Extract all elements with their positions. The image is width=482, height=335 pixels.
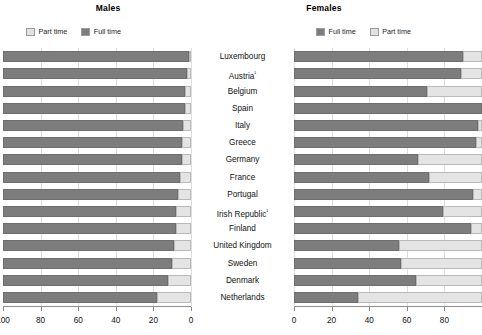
bar-row[interactable] — [294, 51, 482, 62]
bar-row[interactable] — [3, 137, 191, 148]
bar-row[interactable] — [294, 68, 482, 79]
bar-segment-full-time[interactable] — [3, 240, 174, 251]
bar-segment-part-time[interactable] — [399, 240, 482, 251]
bar-segment-full-time[interactable] — [3, 223, 176, 234]
bar-row[interactable] — [294, 223, 482, 234]
axis-tick-label: 0 — [292, 316, 297, 325]
bar-segment-part-time[interactable] — [183, 120, 191, 131]
bar-segment-full-time[interactable] — [294, 206, 443, 217]
category-label: Denmark — [191, 275, 294, 286]
bar-segment-full-time[interactable] — [3, 275, 168, 286]
axis-tick-label: 20 — [149, 316, 158, 325]
bar-row[interactable] — [294, 258, 482, 269]
bar-segment-full-time[interactable] — [294, 240, 399, 251]
bar-segment-part-time[interactable] — [473, 189, 482, 200]
bar-segment-full-time[interactable] — [294, 86, 427, 97]
bar-row[interactable] — [294, 86, 482, 97]
bar-row[interactable] — [294, 137, 482, 148]
bar-segment-full-time[interactable] — [3, 103, 185, 114]
bar-segment-part-time[interactable] — [461, 68, 482, 79]
bar-segment-part-time[interactable] — [176, 206, 191, 217]
bar-segment-full-time[interactable] — [3, 137, 182, 148]
bar-segment-part-time[interactable] — [178, 189, 191, 200]
bar-segment-full-time[interactable] — [3, 120, 183, 131]
bar-segment-full-time[interactable] — [294, 68, 461, 79]
bar-segment-full-time[interactable] — [294, 223, 471, 234]
bar-segment-full-time[interactable] — [294, 275, 416, 286]
bar-row[interactable] — [294, 206, 482, 217]
bar-segment-full-time[interactable] — [3, 189, 178, 200]
bar-segment-part-time[interactable] — [443, 206, 482, 217]
legend-label-part-time: Part time — [39, 27, 68, 36]
bar-row[interactable] — [3, 258, 191, 269]
bar-segment-part-time[interactable] — [478, 120, 482, 131]
bar-segment-full-time[interactable] — [294, 137, 476, 148]
category-label: Germany — [191, 154, 294, 165]
bar-row[interactable] — [3, 275, 191, 286]
bar-segment-part-time[interactable] — [471, 223, 482, 234]
bar-segment-part-time[interactable] — [182, 137, 191, 148]
bar-row[interactable] — [3, 120, 191, 131]
bar-row[interactable] — [294, 189, 482, 200]
bar-segment-part-time[interactable] — [476, 137, 482, 148]
bar-segment-full-time[interactable] — [3, 86, 185, 97]
bar-segment-part-time[interactable] — [429, 172, 482, 183]
bar-segment-full-time[interactable] — [294, 120, 478, 131]
bar-segment-part-time[interactable] — [416, 275, 482, 286]
bar-row[interactable] — [3, 86, 191, 97]
bar-row[interactable] — [294, 154, 482, 165]
bar-segment-part-time[interactable] — [401, 258, 482, 269]
bar-segment-full-time[interactable] — [294, 258, 401, 269]
bar-segment-full-time[interactable] — [294, 292, 358, 303]
bar-segment-full-time[interactable] — [294, 172, 429, 183]
bar-segment-part-time[interactable] — [176, 223, 191, 234]
bar-segment-full-time[interactable] — [294, 189, 473, 200]
bar-row[interactable] — [3, 154, 191, 165]
bar-row[interactable] — [294, 275, 482, 286]
bar-row[interactable] — [3, 223, 191, 234]
bar-segment-part-time[interactable] — [427, 86, 482, 97]
category-label: Sweden — [191, 258, 294, 269]
bar-row[interactable] — [3, 68, 191, 79]
axis-tick — [407, 307, 408, 311]
legend-swatch-part-time-icon — [370, 28, 379, 36]
bar-segment-full-time[interactable] — [3, 172, 180, 183]
axis-tick — [369, 307, 370, 311]
bar-row[interactable] — [294, 240, 482, 251]
bar-segment-full-time[interactable] — [3, 154, 182, 165]
bar-segment-full-time[interactable] — [294, 154, 418, 165]
bar-segment-part-time[interactable] — [182, 154, 191, 165]
bar-row[interactable] — [3, 240, 191, 251]
panel-title-males: Males — [0, 3, 216, 13]
axis-tick-label: 100 — [0, 316, 10, 325]
bar-segment-full-time[interactable] — [3, 68, 187, 79]
bar-segment-part-time[interactable] — [358, 292, 482, 303]
bar-segment-full-time[interactable] — [3, 292, 157, 303]
bar-segment-part-time[interactable] — [174, 240, 191, 251]
bar-segment-part-time[interactable] — [463, 51, 482, 62]
bar-segment-full-time[interactable] — [294, 51, 463, 62]
bar-segment-part-time[interactable] — [172, 258, 191, 269]
axis-tick — [116, 307, 117, 311]
bar-row[interactable] — [3, 292, 191, 303]
category-label: Luxembourg — [191, 51, 294, 62]
bar-row[interactable] — [294, 120, 482, 131]
bar-row[interactable] — [294, 292, 482, 303]
bar-segment-part-time[interactable] — [180, 172, 191, 183]
bar-row[interactable] — [294, 103, 482, 114]
bar-segment-full-time[interactable] — [3, 51, 189, 62]
bar-segment-full-time[interactable] — [294, 103, 482, 114]
bar-row[interactable] — [3, 51, 191, 62]
axis-tick — [41, 307, 42, 311]
bar-row[interactable] — [3, 172, 191, 183]
bar-row[interactable] — [3, 189, 191, 200]
bar-row[interactable] — [3, 103, 191, 114]
axis-line — [3, 306, 191, 307]
bar-segment-full-time[interactable] — [3, 258, 172, 269]
bar-segment-full-time[interactable] — [3, 206, 176, 217]
bar-segment-part-time[interactable] — [157, 292, 191, 303]
bar-row[interactable] — [294, 172, 482, 183]
bar-segment-part-time[interactable] — [168, 275, 191, 286]
bar-segment-part-time[interactable] — [418, 154, 482, 165]
bar-row[interactable] — [3, 206, 191, 217]
